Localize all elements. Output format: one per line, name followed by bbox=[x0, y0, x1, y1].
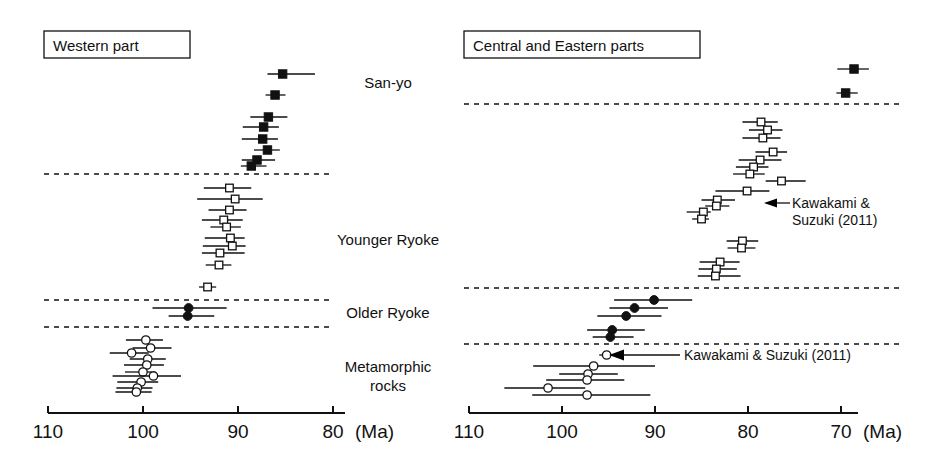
x-tick-label-central-eastern-110: 110 bbox=[454, 421, 484, 442]
x-tick-label-central-eastern-80: 80 bbox=[737, 421, 758, 442]
data-point-western-metamorphic-rocks-2 bbox=[127, 349, 135, 357]
data-point-central-eastern-metamorphic-rocks-1 bbox=[589, 362, 597, 370]
data-point-western-san-yo-0 bbox=[278, 70, 286, 78]
annotation-text-upper-line-0: Kawakami & bbox=[792, 195, 870, 211]
data-point-western-metamorphic-rocks-9 bbox=[132, 388, 140, 396]
data-point-central-eastern-younger-ryoke-6 bbox=[746, 170, 754, 178]
annotation-text-upper-line-1: Suzuki (2011) bbox=[792, 212, 877, 228]
data-point-central-eastern-older-ryoke-0 bbox=[650, 296, 659, 305]
x-axis-unit-central-eastern: (Ma) bbox=[863, 421, 902, 442]
data-point-western-metamorphic-rocks-5 bbox=[139, 368, 147, 376]
data-point-central-eastern-younger-ryoke-14 bbox=[738, 244, 746, 252]
data-point-western-metamorphic-rocks-0 bbox=[142, 336, 150, 344]
x-tick-label-central-eastern-100: 100 bbox=[546, 421, 578, 442]
data-point-central-eastern-older-ryoke-2 bbox=[622, 312, 631, 321]
data-point-western-younger-ryoke-8 bbox=[215, 261, 223, 269]
data-point-western-san-yo-5 bbox=[263, 146, 271, 154]
data-point-central-eastern-older-ryoke-1 bbox=[630, 304, 639, 313]
data-point-western-younger-ryoke-1 bbox=[231, 195, 239, 203]
data-point-western-younger-ryoke-7 bbox=[216, 249, 224, 257]
x-tick-label-western-90: 90 bbox=[227, 421, 248, 442]
data-point-western-older-ryoke-0 bbox=[184, 304, 193, 313]
data-point-western-san-yo-2 bbox=[264, 113, 272, 121]
panel-central-eastern: Central and Eastern parts110100908070(Ma… bbox=[454, 31, 902, 442]
data-point-central-eastern-older-ryoke-4 bbox=[606, 333, 615, 342]
category-labels: San-yoYounger RyokeOlder RyokeMetamorphi… bbox=[337, 74, 439, 394]
data-point-central-eastern-younger-ryoke-2 bbox=[759, 134, 767, 142]
data-point-central-eastern-younger-ryoke-12 bbox=[698, 215, 706, 223]
figure-canvas: Western part1101009080(Ma) Central and E… bbox=[0, 0, 950, 465]
age-range-chart: Western part1101009080(Ma) Central and E… bbox=[0, 0, 950, 465]
data-point-central-eastern-younger-ryoke-0 bbox=[757, 118, 765, 126]
annotation-arrow-upper bbox=[764, 199, 777, 208]
x-tick-label-central-eastern-70: 70 bbox=[830, 421, 851, 442]
x-axis-unit-western: (Ma) bbox=[355, 421, 394, 442]
category-label-metamorphic-rocks: Metamorphic bbox=[345, 358, 432, 375]
x-tick-label-western-100: 100 bbox=[127, 421, 159, 442]
annotations: Kawakami &Suzuki (2011)Kawakami & Suzuki… bbox=[609, 195, 877, 363]
data-point-central-eastern-younger-ryoke-3 bbox=[769, 148, 777, 156]
data-point-western-san-yo-4 bbox=[259, 135, 267, 143]
x-tick-label-western-110: 110 bbox=[33, 421, 63, 442]
panel-title-western: Western part bbox=[53, 37, 139, 54]
x-tick-label-western-80: 80 bbox=[322, 421, 343, 442]
x-tick-label-central-eastern-90: 90 bbox=[644, 421, 665, 442]
data-point-western-san-yo-1 bbox=[271, 91, 279, 99]
panel-title-central-eastern: Central and Eastern parts bbox=[473, 37, 644, 54]
annotation-arrow-lower bbox=[609, 350, 624, 361]
data-point-central-eastern-san-yo-1 bbox=[841, 89, 849, 97]
data-point-central-eastern-younger-ryoke-10 bbox=[713, 202, 721, 210]
data-point-central-eastern-younger-ryoke-8 bbox=[743, 187, 751, 195]
data-point-central-eastern-younger-ryoke-7 bbox=[778, 177, 786, 185]
data-point-western-younger-ryoke-0 bbox=[226, 184, 234, 192]
data-point-central-eastern-younger-ryoke-1 bbox=[764, 126, 772, 134]
data-point-central-eastern-metamorphic-rocks-5 bbox=[583, 391, 591, 399]
data-point-western-san-yo-3 bbox=[259, 123, 267, 131]
data-point-western-san-yo-7 bbox=[247, 162, 255, 170]
category-label-metamorphic-rocks: rocks bbox=[370, 377, 406, 394]
annotation-text-lower: Kawakami & Suzuki (2011) bbox=[684, 347, 851, 363]
data-point-western-younger-ryoke-5 bbox=[227, 234, 235, 242]
data-point-western-metamorphic-rocks-6 bbox=[149, 372, 157, 380]
data-point-western-younger-ryoke-2 bbox=[226, 206, 234, 214]
category-label-san-yo: San-yo bbox=[364, 74, 412, 91]
category-label-older-ryoke: Older Ryoke bbox=[346, 304, 429, 321]
category-label-younger-ryoke: Younger Ryoke bbox=[337, 231, 439, 248]
data-point-western-older-ryoke-1 bbox=[183, 312, 192, 321]
data-point-central-eastern-metamorphic-rocks-4 bbox=[544, 384, 552, 392]
data-point-central-eastern-younger-ryoke-17 bbox=[712, 272, 720, 280]
data-point-western-younger-ryoke-9 bbox=[204, 283, 212, 291]
data-point-central-eastern-metamorphic-rocks-3 bbox=[583, 376, 591, 384]
data-point-central-eastern-san-yo-0 bbox=[850, 65, 858, 73]
data-point-western-metamorphic-rocks-1 bbox=[146, 344, 154, 352]
data-point-western-younger-ryoke-4 bbox=[223, 223, 231, 231]
data-point-western-younger-ryoke-6 bbox=[229, 242, 237, 250]
